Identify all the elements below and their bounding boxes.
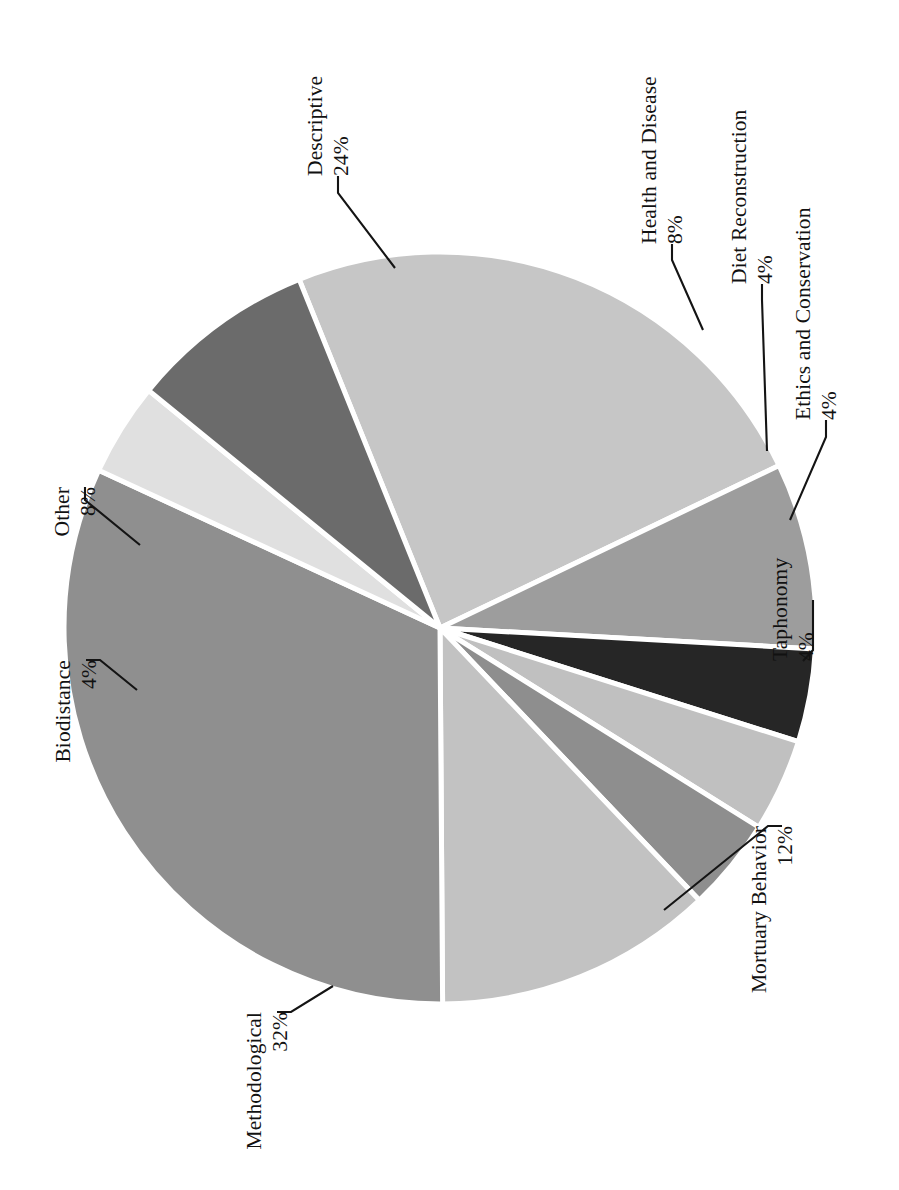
label-other-percent: 8% bbox=[76, 487, 100, 516]
pie-chart-svg: Descriptive 24% Health and Disease 8% Di… bbox=[0, 0, 899, 1190]
label-health-and-disease-name: Health and Disease bbox=[637, 76, 661, 244]
label-other-name: Other bbox=[50, 487, 74, 536]
label-mortuary-behavior-percent: 12% bbox=[773, 826, 797, 866]
pie-chart-figure: Descriptive 24% Health and Disease 8% Di… bbox=[0, 0, 899, 1190]
label-descriptive-name: Descriptive bbox=[303, 76, 327, 176]
label-descriptive-percent: 24% bbox=[329, 136, 353, 176]
label-ethics-and-conservation-percent: 4% bbox=[817, 391, 841, 420]
label-methodological-name: Methodological bbox=[242, 1012, 266, 1150]
label-health-and-disease-percent: 8% bbox=[663, 215, 687, 244]
label-diet-reconstruction-percent: 4% bbox=[753, 255, 777, 284]
label-taphonomy-name: Taphonomy bbox=[768, 558, 792, 661]
label-mortuary-behavior-name: Mortuary Behavior bbox=[747, 826, 771, 993]
label-methodological-percent: 32% bbox=[268, 1012, 292, 1052]
label-taphonomy-percent: 4% bbox=[794, 632, 818, 661]
label-ethics-and-conservation-name: Ethics and Conservation bbox=[791, 207, 815, 420]
pie-slices-group bbox=[64, 252, 816, 1004]
label-diet-reconstruction-name: Diet Reconstruction bbox=[727, 109, 751, 284]
label-biodistance-name: Biodistance bbox=[51, 660, 75, 763]
label-biodistance-percent: 4% bbox=[77, 660, 101, 689]
